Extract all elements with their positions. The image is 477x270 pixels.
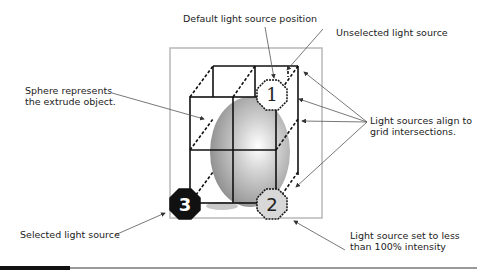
arrow-intensity	[294, 221, 345, 250]
callout-intensity: Light source set to less than 100% inten…	[350, 230, 460, 252]
callout-align: Light sources align to grid intersection…	[370, 115, 472, 137]
svg-text:1: 1	[266, 84, 277, 105]
page-rule-dark	[0, 266, 70, 270]
page-rule-light	[70, 267, 477, 269]
light-source-1[interactable]: 1	[257, 80, 287, 110]
callout-default-position: Default light source position	[183, 13, 317, 24]
light-source-2[interactable]: 2	[257, 189, 287, 219]
callout-sphere: Sphere represents the extrude object.	[25, 85, 116, 107]
svg-text:2: 2	[266, 194, 277, 215]
light-source-3-selected[interactable]: 3	[170, 189, 200, 219]
callout-unselected: Unselected light source	[336, 27, 448, 38]
arrow-selected	[115, 213, 165, 235]
svg-text:3: 3	[179, 194, 192, 215]
callout-selected: Selected light source	[20, 229, 120, 240]
